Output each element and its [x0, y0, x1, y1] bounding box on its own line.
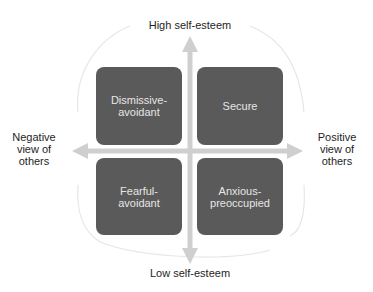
axis-label-bottom-text: Low self-esteem: [150, 267, 230, 279]
axis-label-right: Positive view of others: [305, 131, 369, 167]
quadrant-anxious-preoccupied: Anxious- preoccupied: [197, 158, 283, 235]
quadrant-label-line1: Fearful-: [118, 185, 160, 197]
quadrant-dismissive-avoidant: Dismissive- avoidant: [96, 67, 182, 145]
quadrant-label-line2: avoidant: [111, 106, 167, 118]
quadrant-label-line1: Anxious-: [210, 185, 270, 197]
axis-label-top: High self-esteem: [130, 19, 250, 31]
axis-label-top-text: High self-esteem: [149, 19, 232, 31]
quadrant-fearful-avoidant: Fearful- avoidant: [96, 158, 182, 235]
axis-label-right-line1: Positive: [305, 131, 369, 143]
quadrant-label-line1: Secure: [223, 100, 258, 112]
quadrant-label-line2: preoccupied: [210, 197, 270, 209]
axis-label-left-line3: others: [2, 155, 66, 167]
quadrant-label-line2: avoidant: [118, 197, 160, 209]
axis-label-right-line2: view of: [305, 143, 369, 155]
axis-label-left: Negative view of others: [2, 131, 66, 167]
axis-label-left-line1: Negative: [2, 131, 66, 143]
quadrant-secure: Secure: [197, 67, 283, 145]
axis-label-bottom: Low self-esteem: [130, 267, 250, 279]
quadrant-label-line1: Dismissive-: [111, 94, 167, 106]
axis-label-right-line3: others: [305, 155, 369, 167]
axis-label-left-line2: view of: [2, 143, 66, 155]
